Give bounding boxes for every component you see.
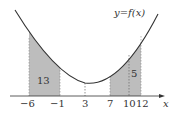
- graph: y=f(x) 13 5 x −6 −1 3 7 10 12: [0, 0, 175, 115]
- area-label-right: 5: [131, 68, 137, 79]
- curve-label: y=f(x): [113, 7, 145, 18]
- tick-label: 7: [107, 98, 113, 109]
- tick-label: 12: [136, 98, 149, 109]
- axis-label: x: [163, 98, 169, 109]
- tick-label: −6: [20, 98, 35, 109]
- tick-label: 10: [123, 98, 136, 109]
- tick-label: −1: [50, 98, 65, 109]
- tick-label: 3: [82, 98, 88, 109]
- area-label-left: 13: [37, 75, 50, 86]
